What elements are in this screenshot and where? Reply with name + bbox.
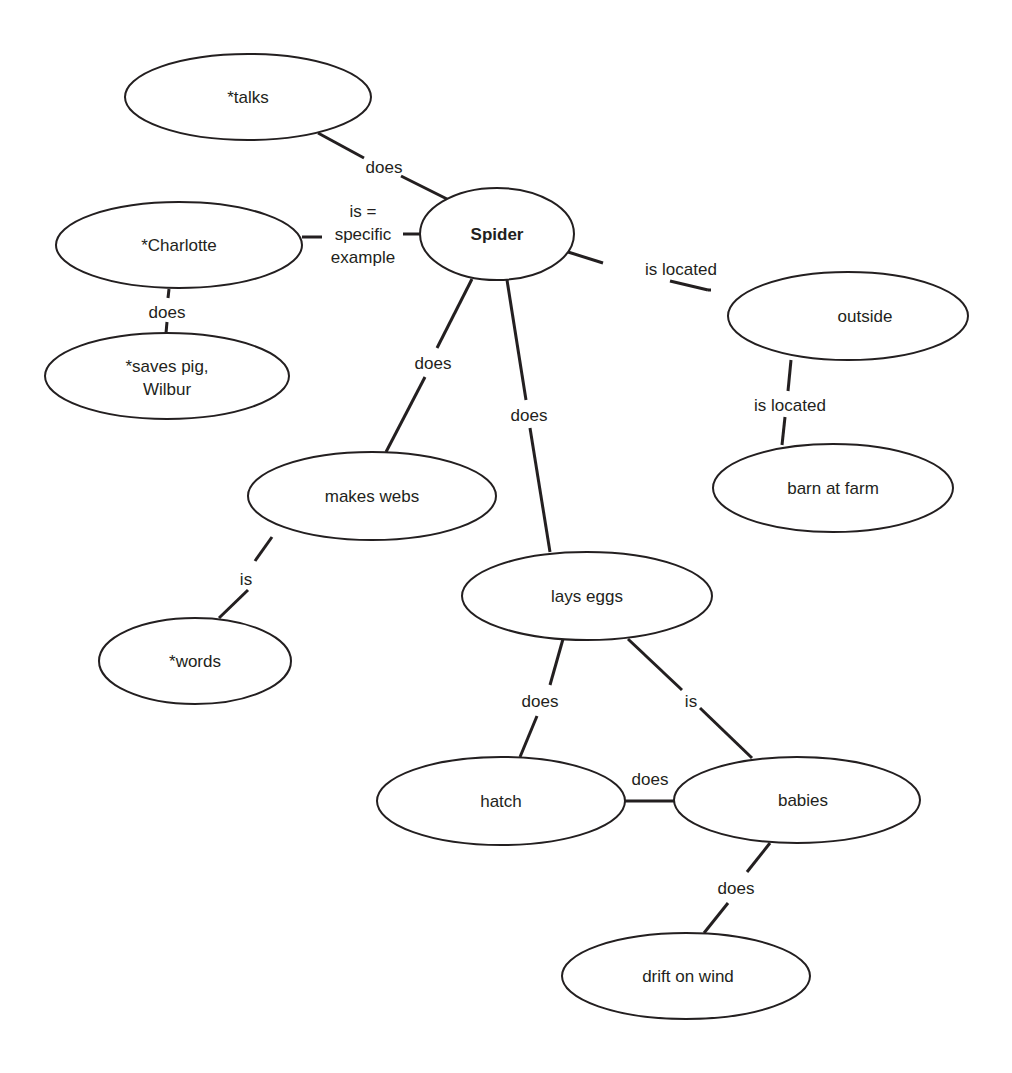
node-talks: *talks [125, 54, 371, 140]
link-label-babies: is [685, 692, 697, 711]
node-label: drift on wind [642, 967, 734, 986]
edge-spider-webs [437, 279, 472, 348]
node-babies: babies [674, 757, 920, 843]
edge-spider-outside [670, 281, 708, 290]
link-label-saves: does [149, 303, 186, 322]
edge-babies-drift [747, 843, 770, 872]
edge-spider-webs [386, 377, 425, 452]
link-label-specific-2: specific [335, 225, 392, 244]
link-label-webs: does [415, 354, 452, 373]
link-label-outside: is located [645, 260, 717, 279]
node-label: *Charlotte [141, 236, 217, 255]
edge-eggs-babies [628, 639, 682, 690]
node-label: babies [778, 791, 828, 810]
edge-charlotte-saves [166, 322, 167, 333]
node-label: hatch [480, 792, 522, 811]
edge-eggs-hatch [520, 716, 537, 757]
node-label: outside [838, 307, 893, 326]
link-label-specific-3: example [331, 248, 395, 267]
edge-eggs-babies [700, 708, 752, 758]
node-outside: outside [728, 272, 968, 360]
link-label-specific-1: is = [350, 202, 377, 221]
node-spider: Spider [420, 188, 574, 280]
node-makes-webs: makes webs [248, 452, 496, 540]
edge-spider-eggs [507, 280, 526, 400]
link-label-talks: does [366, 158, 403, 177]
edge-talks-does [318, 133, 364, 158]
edge-outside-barn [782, 417, 785, 445]
concept-map: *talks *Charlotte *saves pig, Wilbur Spi… [0, 0, 1012, 1073]
node-saves-pig: *saves pig, Wilbur [45, 333, 289, 419]
node-drift: drift on wind [562, 933, 810, 1019]
link-label-hatch-babies: does [632, 770, 669, 789]
edge-outside-barn [788, 360, 791, 391]
node-label: barn at farm [787, 479, 879, 498]
edge-webs-words [219, 590, 248, 618]
node-label-line2: Wilbur [143, 380, 192, 399]
edge-webs-words [255, 537, 272, 561]
link-label-drift: does [718, 879, 755, 898]
link-label-eggs: does [511, 406, 548, 425]
node-words: *words [99, 618, 291, 704]
node-label: *words [169, 652, 221, 671]
edge-spider-outside [568, 252, 603, 263]
node-label: *talks [227, 88, 269, 107]
edge-charlotte-saves [168, 289, 169, 298]
node-hatch: hatch [377, 757, 625, 845]
node-charlotte: *Charlotte [56, 202, 302, 288]
link-label-words: is [240, 570, 252, 589]
node-lays-eggs: lays eggs [462, 552, 712, 640]
node-label: makes webs [325, 487, 419, 506]
edge-eggs-hatch [550, 639, 563, 685]
node-label: lays eggs [551, 587, 623, 606]
link-label-barn: is located [754, 396, 826, 415]
node-label-line1: *saves pig, [125, 357, 208, 376]
edge-spider-eggs [530, 428, 550, 552]
link-label-hatch: does [522, 692, 559, 711]
edge-talks-does [401, 176, 449, 200]
node-label-central: Spider [471, 225, 524, 244]
node-barn: barn at farm [713, 444, 953, 532]
edge-babies-drift [704, 903, 728, 933]
